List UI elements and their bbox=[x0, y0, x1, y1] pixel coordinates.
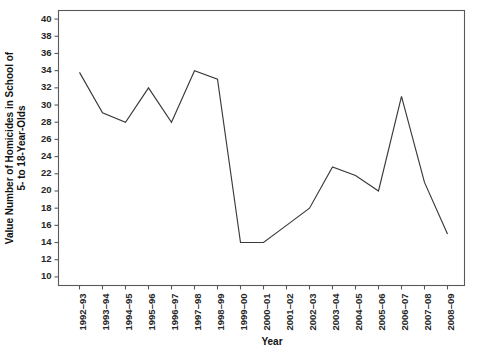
x-tick-label: 2000–01 bbox=[261, 293, 272, 331]
x-tick-label: 1993–94 bbox=[100, 293, 111, 331]
x-tick-label: 1995–96 bbox=[146, 294, 157, 331]
plot-area-border bbox=[59, 11, 465, 286]
y-tick-label: 16 bbox=[41, 219, 52, 230]
y-tick-label: 26 bbox=[41, 133, 52, 144]
x-tick-label: 1996–97 bbox=[169, 294, 180, 331]
y-tick-label: 14 bbox=[41, 236, 52, 247]
homicides-series-line bbox=[80, 71, 448, 243]
y-axis-tick-marks bbox=[55, 19, 59, 277]
y-axis-title-line-1: Value Number of Homicides in School of bbox=[4, 51, 15, 244]
x-tick-label: 2004–05 bbox=[353, 293, 364, 331]
x-axis-tick-marks bbox=[80, 286, 448, 290]
y-tick-label: 24 bbox=[41, 150, 52, 161]
x-tick-label: 1997–98 bbox=[192, 294, 203, 331]
y-tick-label: 20 bbox=[41, 184, 52, 195]
x-tick-label: 1999–00 bbox=[238, 294, 249, 331]
x-axis-tick-labels: 1992–931993–941994–951995–961996–971997–… bbox=[77, 293, 456, 331]
y-tick-label: 34 bbox=[41, 64, 52, 75]
y-tick-label: 38 bbox=[41, 30, 52, 41]
y-tick-label: 36 bbox=[41, 47, 52, 58]
x-tick-label: 2008–09 bbox=[445, 294, 456, 331]
y-axis-title-line-2: 5- to 18-Year-Olds bbox=[16, 105, 27, 190]
y-tick-label: 40 bbox=[41, 13, 52, 24]
data-series-group bbox=[80, 71, 448, 243]
x-axis-title: Year bbox=[261, 336, 282, 347]
plot-frame bbox=[59, 11, 465, 286]
x-tick-label: 2007–08 bbox=[422, 294, 433, 331]
homicides-in-school-line-chart: 10121416182022242628303234363840 1992–93… bbox=[0, 0, 487, 357]
x-tick-label: 1994–95 bbox=[123, 293, 134, 331]
y-tick-label: 10 bbox=[41, 270, 52, 281]
chart-canvas: 10121416182022242628303234363840 1992–93… bbox=[0, 0, 487, 357]
y-tick-label: 30 bbox=[41, 99, 52, 110]
y-axis-title-group: Value Number of Homicides in School of 5… bbox=[4, 51, 27, 244]
y-tick-label: 18 bbox=[41, 202, 52, 213]
x-tick-label: 2005–06 bbox=[376, 294, 387, 331]
y-axis-tick-labels: 10121416182022242628303234363840 bbox=[41, 13, 52, 282]
y-tick-label: 32 bbox=[41, 81, 52, 92]
y-tick-label: 28 bbox=[41, 116, 52, 127]
x-tick-label: 2006–07 bbox=[399, 294, 410, 331]
y-tick-label: 12 bbox=[41, 253, 52, 264]
x-tick-label: 2001–02 bbox=[284, 294, 295, 331]
x-tick-label: 1992–93 bbox=[77, 294, 88, 331]
x-tick-label: 2003–04 bbox=[330, 293, 341, 331]
x-tick-label: 1998–99 bbox=[215, 294, 226, 331]
x-tick-label: 2002–03 bbox=[307, 294, 318, 331]
y-tick-label: 22 bbox=[41, 167, 52, 178]
